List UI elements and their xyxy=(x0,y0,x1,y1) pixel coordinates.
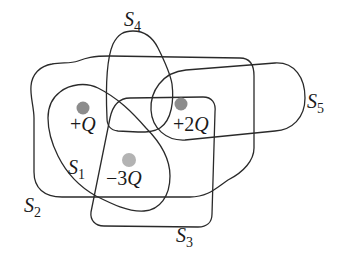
surface-label-s5: S5 xyxy=(307,90,324,116)
charge-dot-minus-3q xyxy=(122,153,136,167)
charge-label-plus-2q: +2Q xyxy=(173,113,209,135)
charge-label-plus-q: +Q xyxy=(70,113,96,135)
surface-label-s2: S2 xyxy=(24,194,41,220)
surface-label-s4: S4 xyxy=(124,8,141,34)
surface-label-s3: S3 xyxy=(176,224,193,250)
gauss-surfaces-diagram: +Q +2Q −3Q S4 S5 S1 S2 S3 xyxy=(0,0,344,268)
charge-dot-plus-2q xyxy=(175,98,188,111)
charge-label-minus-3q: −3Q xyxy=(106,167,142,189)
surface-s4 xyxy=(107,31,173,132)
surface-s2 xyxy=(31,56,254,197)
surface-label-s1: S1 xyxy=(68,156,85,182)
